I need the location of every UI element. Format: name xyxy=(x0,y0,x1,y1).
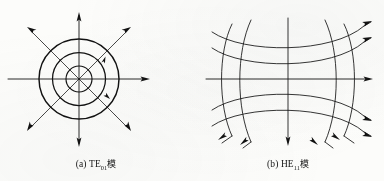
caption-he11-label: (b) xyxy=(267,159,278,169)
figure-panel-te01: (a) TE01模 xyxy=(0,0,192,181)
te01-radial-tail-upper-left xyxy=(33,33,43,43)
caption-te01-mode: TE xyxy=(89,159,101,169)
he11-arrowhead-lower-left-2 xyxy=(240,137,249,145)
he11-vertical-curve-4 xyxy=(325,20,336,142)
te01-arrowhead-lower-right xyxy=(124,122,131,131)
te01-mode-diagram xyxy=(0,0,192,181)
he11-arrowhead-lower-center-right-1 xyxy=(309,137,318,145)
te01-circulation-arrowhead-se xyxy=(104,93,111,99)
caption-te01-cjk: 模 xyxy=(107,159,116,169)
te01-radial-tail-lower-left xyxy=(33,115,43,125)
caption-te01-label: (a) xyxy=(76,159,87,169)
te01-circulation-arrowhead-ne xyxy=(101,57,105,64)
he11-tail-lower-left-2 xyxy=(243,142,251,148)
figure-page: (a) TE01模 xyxy=(0,0,384,181)
caption-he11: (b) HE11模 xyxy=(192,159,384,172)
te01-radial-tail-lower-right xyxy=(115,115,125,125)
he11-arrowhead-lower-left-1 xyxy=(218,132,227,140)
figure-panel-he11: (b) HE11模 xyxy=(192,0,384,181)
figure-row: (a) TE01模 xyxy=(0,0,384,181)
he11-tail-lower-right-2 xyxy=(325,142,333,148)
caption-he11-cjk: 模 xyxy=(300,159,309,169)
he11-tail-lower-right-1 xyxy=(344,136,354,143)
he11-mode-diagram xyxy=(192,0,384,181)
he11-arrowhead-lower-center-right-2 xyxy=(331,132,340,140)
te01-radial-tail-upper-right xyxy=(115,33,125,43)
he11-vertical-curve-5 xyxy=(344,24,355,136)
te01-arrowhead-lower-left xyxy=(27,122,34,131)
te01-arrowhead-upper-left xyxy=(27,27,36,34)
he11-vertical-curve-2 xyxy=(240,20,251,142)
caption-he11-mode: HE xyxy=(281,159,294,169)
te01-arrowhead-upper-right xyxy=(122,27,131,34)
caption-te01: (a) TE01模 xyxy=(0,159,192,172)
